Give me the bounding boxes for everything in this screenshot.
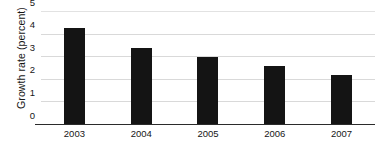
y-axis-title: Growth rate (percent) [14,0,28,118]
x-axis-tick-label: 2007 [308,127,375,143]
bar-slot [108,12,175,125]
x-axis-tick-label: 2003 [41,127,108,143]
bars-layer [41,12,375,125]
x-axis-tick-label: 2005 [175,127,242,143]
bar [64,28,85,125]
y-axis-tick-label: 5 [15,0,35,7]
y-axis-tick-label: 3 [15,43,35,53]
y-axis-tick-label: 0 [15,111,35,121]
plot-area: 012345 [41,12,375,125]
bar [264,66,285,125]
bar-slot [175,12,242,125]
bar [197,57,218,125]
bar-slot [241,12,308,125]
y-axis-tick-label: 2 [15,66,35,76]
y-axis-tick-label: 4 [15,20,35,30]
x-axis-tick-labels: 20032004200520062007 [41,127,375,143]
bar-slot [41,12,108,125]
y-axis-tick-label: 1 [15,88,35,98]
bar-slot [308,12,375,125]
bar [331,75,352,125]
x-axis-tick-label: 2006 [241,127,308,143]
bar [131,48,152,125]
x-axis-line [41,124,375,125]
bar-chart: Growth rate (percent) 012345 20032004200… [0,0,383,147]
x-axis-tick-label: 2004 [108,127,175,143]
